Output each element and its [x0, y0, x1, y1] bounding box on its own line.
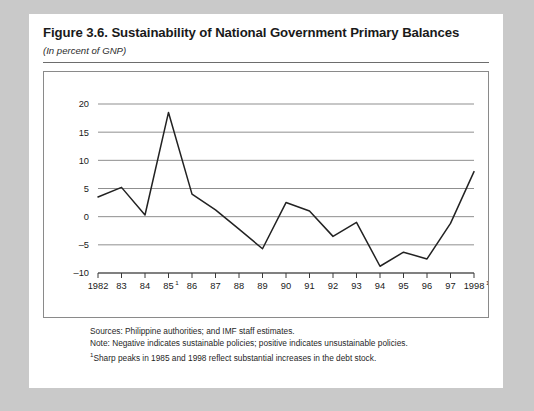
- footnote-text: Sharp peaks in 1985 and 1998 reflect sub…: [93, 353, 376, 363]
- sources-line: Sources: Philippine authorities; and IMF…: [90, 326, 408, 338]
- x-axis-tick-label: 92: [328, 281, 338, 291]
- x-axis-tick-label: 90: [281, 281, 291, 291]
- y-axis-tick-label: –5: [79, 240, 89, 250]
- x-axis-tick-label: 84: [140, 281, 150, 291]
- x-axis-tick-label: 1982: [88, 281, 109, 291]
- line-chart: –10–505101520198283848518687888990919293…: [44, 72, 488, 317]
- x-axis-tick-label: 96: [422, 281, 432, 291]
- figure-subtitle: (In percent of GNP): [43, 45, 126, 56]
- footnote-line: 1Sharp peaks in 1985 and 1998 reflect su…: [90, 349, 408, 364]
- x-axis-tick-superscript: 1: [486, 279, 488, 286]
- y-axis-tick-label: –10: [73, 268, 89, 278]
- chart-plot-box: –10–505101520198283848518687888990919293…: [43, 71, 489, 318]
- figure-panel: Figure 3.6. Sustainability of National G…: [29, 14, 503, 388]
- y-axis-tick-label: 15: [79, 128, 89, 138]
- x-axis-tick-label: 87: [210, 281, 220, 291]
- x-axis-tick-label: 1998: [464, 281, 485, 291]
- x-axis-tick-label: 93: [351, 281, 361, 291]
- figure-notes: Sources: Philippine authorities; and IMF…: [90, 326, 408, 364]
- x-axis-tick-label: 86: [187, 281, 197, 291]
- page-title: Figure 3.6. Sustainability of National G…: [43, 25, 459, 40]
- y-axis-tick-label: 5: [84, 184, 89, 194]
- data-series-line: [98, 112, 474, 266]
- y-axis-tick-label: 10: [79, 156, 89, 166]
- title-divider: [43, 62, 489, 63]
- x-axis-tick-label: 88: [234, 281, 244, 291]
- x-axis-tick-label: 83: [116, 281, 126, 291]
- y-axis-tick-label: 20: [79, 99, 89, 109]
- y-axis-tick-label: 0: [84, 212, 89, 222]
- x-axis-tick-superscript: 1: [175, 279, 179, 286]
- x-axis-tick-label: 95: [398, 281, 408, 291]
- x-axis-tick-label: 97: [445, 281, 455, 291]
- x-axis-tick-label: 89: [257, 281, 267, 291]
- x-axis-tick-label: 91: [304, 281, 314, 291]
- note-line: Note: Negative indicates sustainable pol…: [90, 338, 408, 350]
- x-axis-tick-label: 94: [375, 281, 385, 291]
- x-axis-tick-label: 85: [163, 281, 173, 291]
